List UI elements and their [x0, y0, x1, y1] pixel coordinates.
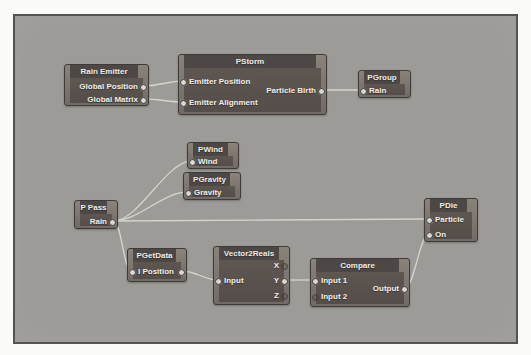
port-dot-pwind-wind[interactable] [189, 159, 196, 166]
port-dot-pstorm-emitter-position[interactable] [180, 79, 187, 86]
port-label-vector2reals-x: X [274, 261, 279, 271]
wire-p-pass.rain-to-pgravity.gravity[interactable] [114, 192, 188, 221]
node-title-compare: Compare [316, 259, 399, 272]
port-label-p-pass-rain: Rain [90, 217, 107, 227]
node-p-pass[interactable]: P PassRain [74, 200, 118, 229]
port-dot-pdie-particle[interactable] [426, 217, 433, 224]
wire-rain-emitter.global-matrix-to-pstorm.emitter-alignment[interactable] [145, 99, 183, 102]
port-label-pdie-on: On [435, 230, 446, 240]
port-dot-pdie-on[interactable] [426, 232, 433, 239]
node-compare[interactable]: CompareInput 1Input 2Output [310, 258, 410, 307]
node-title-pwind: PWind [193, 143, 228, 156]
port-dot-pgetdata-i-position-out[interactable] [178, 269, 185, 276]
node-title-pdie: PDie [430, 199, 467, 212]
port-label-rain-emitter-global-matrix: Global Matrix [87, 95, 138, 105]
port-label-rain-emitter-global-position: Global Position [79, 82, 138, 92]
port-dot-vector2reals-input[interactable] [215, 278, 222, 285]
port-label-compare-input-2: Input 2 [321, 292, 347, 302]
port-label-pwind-wind: Wind [198, 157, 217, 167]
port-dot-rain-emitter-global-matrix[interactable] [140, 97, 147, 104]
node-pdie[interactable]: PDieParticleOn [424, 198, 478, 242]
port-dot-pgroup-rain[interactable] [360, 88, 367, 95]
port-label-compare-output: Output [373, 284, 399, 294]
port-dot-vector2reals-x[interactable] [281, 263, 288, 270]
wire-rain-emitter.global-position-to-pstorm.emitter-position[interactable] [145, 81, 183, 86]
port-label-compare-input-1: Input 1 [321, 276, 347, 286]
port-label-pstorm-emitter-alignment: Emitter Alignment [189, 98, 258, 108]
port-label-pgroup-rain: Rain [369, 86, 386, 96]
port-label-pdie-particle: Particle [435, 215, 464, 225]
port-dot-compare-output[interactable] [401, 286, 408, 293]
node-title-rain-emitter: Rain Emitter [70, 65, 138, 78]
node-pstorm[interactable]: PStormEmitter PositionEmitter AlignmentP… [178, 54, 327, 115]
node-title-pgravity: PGravity [189, 173, 230, 186]
port-dot-rain-emitter-global-position[interactable] [140, 84, 147, 91]
port-label-vector2reals-z: Z [274, 291, 279, 301]
port-label-pgravity-gravity: Gravity [194, 188, 222, 198]
node-pwind[interactable]: PWindWind [187, 142, 239, 169]
port-dot-compare-input-2[interactable] [312, 294, 319, 301]
port-dot-pgetdata-i-position[interactable] [129, 269, 136, 276]
port-dot-pstorm-emitter-alignment[interactable] [180, 100, 187, 107]
port-label-vector2reals-input: Input [224, 276, 244, 286]
node-title-vector2reals: Vector2Reals [219, 247, 279, 260]
node-title-p-pass: P Pass [80, 201, 107, 214]
port-dot-pgravity-gravity[interactable] [185, 190, 192, 197]
node-vector2reals[interactable]: Vector2RealsInputXYZ [213, 246, 290, 305]
node-pgravity[interactable]: PGravityGravity [183, 172, 241, 200]
node-rain-emitter[interactable]: Rain EmitterGlobal PositionGlobal Matrix [64, 64, 149, 106]
node-graph-stage: Rain EmitterGlobal PositionGlobal Matrix… [0, 0, 531, 355]
page: Rain EmitterGlobal PositionGlobal Matrix… [0, 0, 531, 355]
port-dot-p-pass-rain[interactable] [109, 219, 116, 226]
node-title-pgetdata: PGetData [133, 249, 176, 262]
node-title-pstorm: PStorm [184, 55, 316, 68]
port-dot-vector2reals-z[interactable] [281, 293, 288, 300]
node-title-pgroup: PGroup [364, 71, 400, 84]
port-label-pgetdata-i-position: I Position [138, 267, 174, 277]
port-dot-pstorm-particle-birth[interactable] [318, 88, 325, 95]
port-dot-compare-input-1[interactable] [312, 278, 319, 285]
wire-p-pass.rain-to-pdie.particle[interactable] [114, 219, 429, 221]
wire-p-pass.rain-to-pwind.wind[interactable] [114, 161, 192, 221]
port-label-vector2reals-y: Y [274, 276, 279, 286]
port-label-pstorm-particle-birth: Particle Birth [266, 86, 316, 96]
node-pgroup[interactable]: PGroupRain [358, 70, 411, 98]
port-dot-vector2reals-y[interactable] [281, 278, 288, 285]
port-label-pstorm-emitter-position: Emitter Position [189, 77, 250, 87]
node-pgetdata[interactable]: PGetDataI Position [127, 248, 187, 282]
